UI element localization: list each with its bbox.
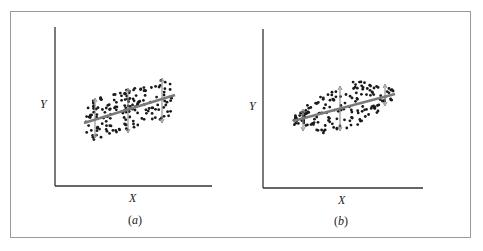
scatter-point (164, 104, 167, 107)
scatter-point (319, 96, 322, 99)
scatter-point (360, 93, 363, 96)
panel-a-axes (55, 27, 212, 186)
scatter-point (163, 115, 166, 118)
scatter-point (311, 122, 314, 125)
scatter-point (356, 98, 359, 101)
scatter-point (370, 107, 373, 110)
scatter-point (85, 115, 88, 118)
scatter-point (123, 116, 126, 119)
scatter-point (132, 89, 135, 92)
scatter-point (332, 98, 335, 101)
scatter-point (109, 117, 112, 120)
scatter-point (136, 124, 139, 127)
scatter-point (369, 94, 372, 97)
scatter-point (148, 107, 151, 110)
scatter-point (297, 122, 300, 125)
scatter-point (350, 124, 353, 127)
scatter-point (131, 104, 134, 107)
scatter-point (132, 123, 135, 126)
scatter-point (307, 111, 310, 114)
scatter-point (105, 107, 108, 110)
scatter-point (373, 87, 376, 90)
scatter-point (336, 117, 339, 120)
scatter-point (335, 90, 338, 93)
scatter-point (113, 99, 116, 102)
scatter-point (306, 124, 309, 127)
scatter-point (119, 92, 122, 95)
scatter-point (365, 93, 368, 96)
scatter-point (345, 127, 348, 130)
scatter-point (306, 104, 309, 107)
scatter-point (155, 96, 158, 99)
scatter-point (166, 110, 169, 113)
scatter-point (329, 99, 332, 102)
scatter-point (324, 103, 327, 106)
scatter-point (99, 97, 102, 100)
scatter-point (332, 126, 335, 129)
scatter-point (108, 124, 111, 127)
scatter-point (327, 93, 330, 96)
scatter-point (344, 102, 347, 105)
scatter-point (123, 104, 126, 107)
scatter-point (124, 123, 127, 126)
scatter-point (162, 106, 165, 109)
scatter-point (366, 87, 369, 90)
scatter-point (164, 87, 167, 90)
caption-paren-close: ) (138, 213, 142, 227)
scatter-point (150, 86, 153, 89)
scatter-point (317, 101, 320, 104)
scatter-point (97, 106, 100, 109)
scatter-point (371, 91, 374, 94)
scatter-point (134, 109, 137, 112)
scatter-point (309, 106, 312, 109)
scatter-point (390, 89, 393, 92)
scatter-point (354, 83, 357, 86)
scatter-point (145, 112, 148, 115)
scatter-point (114, 93, 117, 96)
scatter-point (142, 99, 145, 102)
scatter-point (114, 105, 117, 108)
scatter-point (377, 110, 380, 113)
scatter-point (356, 123, 359, 126)
scatter-point (388, 91, 391, 94)
scatter-point (128, 116, 131, 119)
scatter-point (156, 104, 159, 107)
scatter-point (351, 111, 354, 114)
caption-paren-close: ) (344, 214, 348, 228)
scatter-point (89, 114, 92, 117)
scatter-point (144, 89, 147, 92)
scatter-point (369, 85, 372, 88)
scatter-point (144, 94, 147, 97)
scatter-point (104, 111, 107, 114)
scatter-point (324, 124, 327, 127)
scatter-point (120, 94, 123, 97)
scatter-point (115, 108, 118, 111)
scatter-point (356, 87, 359, 90)
scatter-point (345, 93, 348, 96)
scatter-point (132, 98, 135, 101)
scatter-point (96, 113, 99, 116)
scatter-point (328, 117, 331, 120)
scatter-point (328, 106, 331, 109)
scatter-point (158, 86, 161, 89)
scatter-point (343, 118, 346, 121)
scatter-point (355, 92, 358, 95)
scatter-point (169, 99, 172, 102)
scatter-point (108, 132, 111, 135)
scatter-point (120, 99, 123, 102)
scatter-point (150, 106, 153, 109)
scatter-point (388, 87, 391, 90)
panel-b-y-label: Y (249, 99, 256, 114)
scatter-point (166, 101, 169, 104)
scatter-point (357, 112, 360, 115)
scatter-point (101, 122, 104, 125)
scatter-point (362, 86, 365, 89)
scatter-point (167, 114, 170, 117)
scatter-point (331, 122, 334, 125)
scatter-point (330, 94, 333, 97)
scatter-point (364, 115, 367, 118)
scatter-point (115, 131, 118, 134)
scatter-point (298, 114, 301, 117)
scatter-point (361, 110, 364, 113)
scatter-point (361, 105, 364, 108)
